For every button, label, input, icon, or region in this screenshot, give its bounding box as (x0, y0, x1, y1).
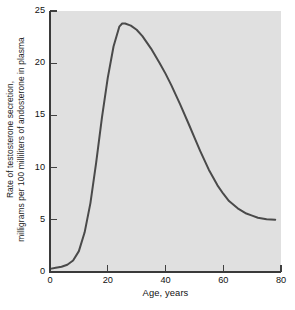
y-tick-label: 10 (25, 162, 45, 172)
y-tick-label: 5 (25, 214, 45, 224)
y-tick-label: 15 (25, 109, 45, 119)
x-tick-label: 60 (212, 275, 234, 285)
x-tick-label: 20 (97, 275, 119, 285)
x-tick-label: 40 (155, 275, 177, 285)
x-tick-label: 0 (39, 275, 61, 285)
testosterone-secretion-chart: Rate of testosterone secretion, milligra… (0, 0, 295, 310)
plot-svg (0, 0, 295, 310)
y-tick-label: 25 (25, 5, 45, 15)
x-tick-label: 80 (270, 275, 292, 285)
x-axis-title: Age, years (50, 287, 281, 298)
y-tick-label: 20 (25, 57, 45, 67)
